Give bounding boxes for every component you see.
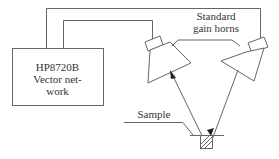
instrument-label: HP8720B Vector net- work bbox=[12, 61, 103, 97]
right-horn bbox=[221, 37, 268, 81]
sample-leader-line bbox=[124, 123, 193, 136]
measurement-setup-diagram: HP8720B Vector net- work Standard gain h… bbox=[0, 0, 279, 159]
cable-left-horn bbox=[64, 21, 153, 49]
horns-label-line2: gain horns bbox=[180, 22, 252, 34]
sample-label: Sample bbox=[134, 108, 174, 120]
horns-label: Standard gain horns bbox=[180, 10, 252, 34]
instrument-line2: Vector net- bbox=[12, 73, 103, 85]
instrument-line3: work bbox=[12, 85, 103, 97]
left-horn bbox=[145, 36, 191, 83]
instrument-line1: HP8720B bbox=[12, 61, 103, 73]
arrowhead-reflected bbox=[207, 128, 214, 136]
reflected-beam bbox=[209, 70, 238, 148]
horns-leader-line bbox=[172, 40, 240, 46]
horns-label-line1: Standard bbox=[180, 10, 252, 22]
